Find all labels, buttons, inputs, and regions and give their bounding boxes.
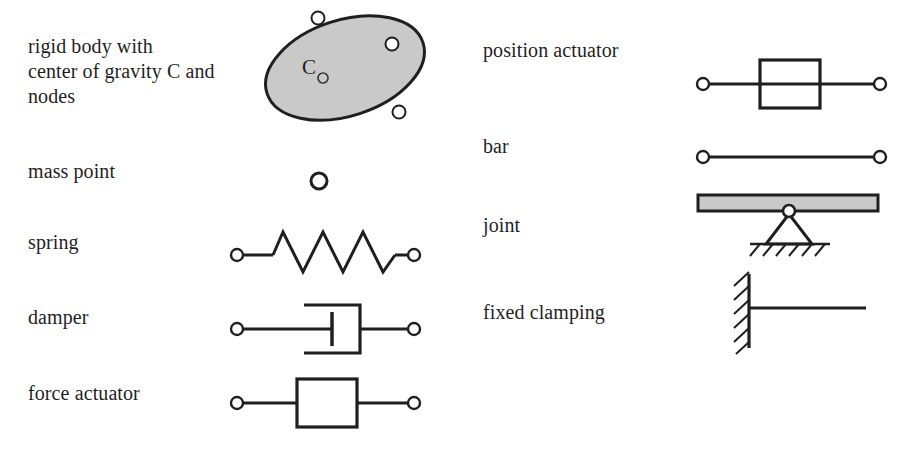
rigid-body-node-right-lower bbox=[393, 106, 406, 119]
label-mass-point: mass point bbox=[28, 159, 115, 184]
symbol-mass-point bbox=[300, 162, 340, 202]
force-actuator-box bbox=[297, 379, 357, 427]
damper-node-right bbox=[408, 323, 420, 335]
spring-coil-path bbox=[273, 232, 395, 272]
label-force-actuator: force actuator bbox=[28, 381, 140, 406]
symbol-rigid-body: C bbox=[255, 8, 440, 138]
position-actuator-node-left bbox=[697, 78, 709, 90]
rigid-body-ellipse bbox=[252, 0, 438, 139]
label-rigid-body: rigid body with center of gravity C and … bbox=[28, 34, 215, 109]
joint-pivot-circle bbox=[783, 205, 795, 217]
joint-ground-hatching bbox=[750, 244, 825, 256]
symbol-bar bbox=[694, 142, 894, 174]
fixed-clamping-hatching bbox=[734, 272, 749, 354]
bar-node-left bbox=[697, 151, 709, 163]
symbol-damper bbox=[228, 296, 428, 358]
label-bar: bar bbox=[483, 134, 509, 159]
label-fixed-clamping: fixed clamping bbox=[483, 300, 605, 325]
bar-node-right bbox=[874, 151, 886, 163]
label-joint: joint bbox=[483, 213, 520, 238]
label-damper: damper bbox=[28, 305, 89, 330]
force-actuator-node-right bbox=[408, 397, 420, 409]
center-of-gravity-label: C bbox=[302, 55, 316, 79]
symbol-joint bbox=[694, 188, 894, 268]
symbol-spring bbox=[228, 222, 428, 278]
force-actuator-node-left bbox=[231, 397, 243, 409]
position-actuator-node-right bbox=[874, 78, 886, 90]
rigid-body-node-top bbox=[312, 12, 325, 25]
damper-node-left bbox=[231, 323, 243, 335]
symbol-fixed-clamping bbox=[694, 272, 894, 357]
symbol-force-actuator bbox=[228, 372, 428, 434]
label-spring: spring bbox=[28, 230, 79, 255]
center-of-gravity-node bbox=[318, 73, 328, 83]
spring-node-left bbox=[231, 249, 243, 261]
figure-canvas: rigid body with center of gravity C and … bbox=[0, 0, 905, 451]
mass-point-circle bbox=[311, 173, 327, 189]
joint-support-triangle bbox=[766, 214, 812, 244]
rigid-body-node-right-upper bbox=[386, 38, 399, 51]
spring-node-right bbox=[408, 249, 420, 261]
label-position-actuator: position actuator bbox=[483, 38, 619, 63]
symbol-position-actuator bbox=[694, 52, 894, 114]
